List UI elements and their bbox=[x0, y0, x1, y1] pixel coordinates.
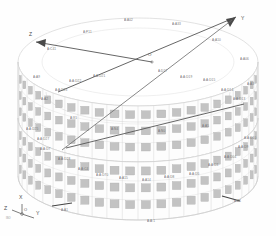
part-label: A:C41 bbox=[47, 47, 56, 51]
panel-tile bbox=[157, 166, 166, 174]
panel-tile bbox=[126, 143, 135, 151]
panel-tile bbox=[68, 193, 76, 201]
panel-tile bbox=[110, 166, 119, 174]
panel-tile bbox=[56, 116, 63, 124]
panel-tile bbox=[95, 125, 104, 133]
panel-tile bbox=[255, 148, 257, 156]
triad-label-y: Y bbox=[36, 210, 39, 216]
panel-tile bbox=[19, 108, 21, 116]
panel-tile bbox=[244, 159, 248, 167]
panel-tile bbox=[201, 176, 209, 184]
panel-tile bbox=[45, 186, 51, 194]
panel-tile bbox=[255, 76, 257, 84]
panel-tile bbox=[244, 119, 248, 127]
part-label: A:A14 bbox=[142, 178, 151, 182]
panel-tile bbox=[81, 196, 89, 204]
panel-tile bbox=[110, 183, 119, 191]
panel-tile bbox=[68, 176, 76, 184]
panel-tile bbox=[36, 181, 41, 189]
panel-tile bbox=[235, 164, 240, 172]
panel-tile bbox=[28, 143, 32, 151]
part-label: A:A:D22 bbox=[69, 79, 81, 83]
panel-tile bbox=[250, 171, 253, 179]
panel-tile bbox=[141, 143, 150, 151]
panel-tile bbox=[19, 92, 21, 100]
panel-tile bbox=[36, 108, 41, 116]
part-label: A:A:C4 bbox=[78, 167, 88, 171]
panel-tile bbox=[81, 179, 89, 187]
panel-tile bbox=[19, 165, 21, 173]
part-label: A:N0 bbox=[158, 129, 165, 133]
part-label: A:A15 bbox=[119, 176, 128, 180]
panel-tile bbox=[157, 143, 166, 151]
panel-tile bbox=[95, 141, 104, 149]
triad-note: ISO bbox=[6, 217, 10, 220]
part-label: A:A:D14 bbox=[221, 88, 233, 92]
panel-tile bbox=[45, 169, 51, 177]
part-label: A:X1 bbox=[70, 116, 77, 120]
part-label: A:P11 bbox=[83, 30, 92, 34]
panel-tile bbox=[201, 136, 209, 144]
panel-tile bbox=[214, 100, 221, 108]
panel-tile bbox=[23, 137, 26, 145]
part-label: A:A:D04 bbox=[224, 155, 236, 159]
panel-tile bbox=[28, 103, 32, 111]
panel-tile bbox=[141, 184, 150, 192]
panel-tile bbox=[255, 165, 257, 173]
panel-tile bbox=[187, 123, 195, 131]
axis-triad bbox=[12, 204, 34, 218]
part-label: A:A:D5 bbox=[189, 172, 199, 176]
panel-tile bbox=[157, 200, 166, 208]
panel-tile bbox=[157, 110, 166, 118]
panel-tile bbox=[141, 167, 150, 175]
part-label: A:A:1 bbox=[147, 219, 155, 223]
panel-tile bbox=[95, 182, 104, 190]
part-label: A:A:D15 bbox=[203, 78, 215, 82]
part-label: A:A:D23 bbox=[55, 88, 67, 92]
panel-tile bbox=[214, 190, 221, 198]
panel-tile bbox=[110, 110, 119, 118]
part-label: A:A:D27 bbox=[37, 137, 49, 141]
panel-tile bbox=[244, 176, 248, 184]
panel-tile bbox=[214, 116, 221, 124]
panel-tile bbox=[225, 186, 231, 194]
panel-tile bbox=[45, 152, 51, 160]
panel-tile bbox=[172, 198, 181, 206]
panel-tile bbox=[255, 92, 257, 100]
panel-tile bbox=[126, 201, 135, 209]
panel-tile bbox=[250, 154, 253, 162]
panel-tile bbox=[244, 86, 248, 94]
part-label: A:A9 bbox=[33, 75, 40, 79]
panel-tile bbox=[214, 173, 221, 181]
panel-tile bbox=[141, 201, 150, 209]
part-label: A:A:D21 bbox=[93, 74, 105, 78]
panel-tile bbox=[187, 106, 195, 114]
panel-tile bbox=[250, 114, 253, 122]
panel-tile bbox=[23, 154, 26, 162]
panel-tile bbox=[235, 108, 240, 116]
panel-tile bbox=[56, 100, 63, 108]
panel-tile bbox=[28, 119, 32, 127]
panel-tile bbox=[56, 173, 63, 181]
panel-tile bbox=[157, 183, 166, 191]
panel-tile bbox=[225, 128, 231, 136]
part-label: A:A:D9 bbox=[238, 145, 248, 149]
panel-tile bbox=[172, 125, 181, 133]
panel-tile bbox=[187, 196, 195, 204]
panel-tile bbox=[126, 111, 135, 119]
panel-tile bbox=[95, 198, 104, 206]
panel-tile bbox=[110, 200, 119, 208]
panel-tile bbox=[19, 132, 21, 140]
panel-tile bbox=[225, 112, 231, 120]
panel-tile bbox=[28, 159, 32, 167]
axis-label-y: Y bbox=[241, 15, 244, 21]
drawing-canvas: Z Y O X Z Y O ISO A:A02A:A33A:P11A:A10A:… bbox=[0, 0, 276, 236]
panel-tile bbox=[68, 104, 76, 112]
triad-label-z: Z bbox=[4, 205, 7, 211]
part-label: A:A:D13 bbox=[233, 97, 245, 101]
panel-tile bbox=[23, 171, 26, 179]
panel-tile bbox=[126, 167, 135, 175]
part-label: A:A:D70 bbox=[96, 173, 108, 177]
panel-tile bbox=[23, 81, 26, 89]
panel-tile bbox=[95, 165, 104, 173]
